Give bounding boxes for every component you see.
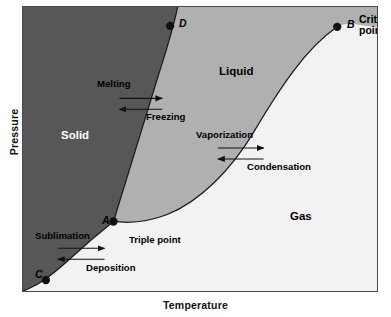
point-label-D: D [179, 18, 187, 30]
transition-label-sublimation: Sublimation [35, 231, 90, 242]
transition-label-condensation: Condensation [247, 162, 311, 173]
triple-point-caption: Triple point [129, 235, 181, 246]
point-label-A: A [102, 215, 110, 227]
critical-point-caption: Critical point [359, 14, 378, 37]
phase-diagram-figure: Pressure Temperature [0, 0, 391, 317]
critical-point-caption-line2: point [359, 25, 378, 36]
transition-label-vaporization: Vaporization [196, 130, 253, 141]
plot-area: Solid Liquid Gas Melting Freezing Vapori… [22, 6, 378, 292]
region-label-liquid: Liquid [219, 65, 254, 78]
phase-diagram-svg [23, 7, 377, 291]
point-label-B: B [347, 19, 355, 31]
point-A-dot [109, 217, 117, 225]
point-B-dot [333, 23, 341, 31]
region-label-solid: Solid [61, 129, 89, 142]
y-axis-label: Pressure [8, 92, 20, 172]
x-axis-label: Temperature [0, 299, 391, 311]
point-label-C: C [35, 269, 43, 281]
point-D-dot [166, 22, 174, 30]
transition-label-freezing: Freezing [146, 112, 185, 123]
transition-label-melting: Melting [97, 79, 131, 90]
transition-label-deposition: Deposition [86, 263, 136, 274]
region-label-gas: Gas [290, 210, 312, 223]
